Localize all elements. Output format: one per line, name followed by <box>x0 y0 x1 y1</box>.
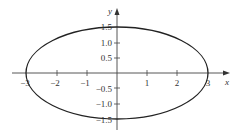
svg-text:−2: −2 <box>50 78 60 88</box>
svg-text:0.5: 0.5 <box>101 53 113 63</box>
svg-text:1.0: 1.0 <box>101 38 113 48</box>
x-axis-label: x <box>224 77 229 87</box>
y-axis-arrow-icon <box>115 8 120 15</box>
svg-text:−1.0: −1.0 <box>96 99 113 109</box>
svg-text:−1.5: −1.5 <box>96 115 113 125</box>
svg-text:−0.5: −0.5 <box>96 84 113 94</box>
x-tick-labels: −3 −2 −1 1 2 3 <box>20 78 211 88</box>
svg-text:1.5: 1.5 <box>101 22 113 32</box>
svg-text:−1: −1 <box>80 78 90 88</box>
x-axis-arrow-icon <box>223 71 230 76</box>
svg-text:1: 1 <box>145 78 150 88</box>
svg-text:2: 2 <box>175 78 180 88</box>
svg-text:3: 3 <box>206 78 211 88</box>
y-tick-labels: 1.5 1.0 0.5 −0.5 −1.0 −1.5 <box>96 22 113 125</box>
y-axis-label: y <box>107 6 112 16</box>
ellipse-plot: −3 −2 −1 1 2 3 1.5 1.0 0.5 −0.5 −1.0 −1.… <box>0 0 234 136</box>
svg-text:−3: −3 <box>20 78 30 88</box>
